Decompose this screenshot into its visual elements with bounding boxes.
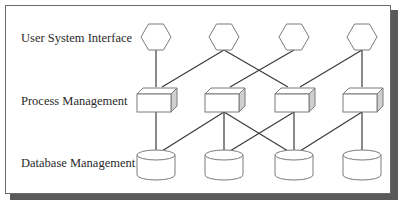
connection-line (300, 50, 362, 87)
cube-top-face (205, 88, 245, 94)
process-nodes (137, 88, 383, 112)
connection-line (162, 112, 224, 151)
cube-icon (205, 94, 239, 112)
database-cylinder-icon (343, 150, 381, 160)
hexagon-icon (209, 24, 239, 50)
cube-icon (137, 94, 171, 112)
hexagon-icon (279, 24, 309, 50)
cube-icon (275, 94, 309, 112)
database-cylinder-icon (137, 150, 175, 160)
cube-top-face (343, 88, 383, 94)
database-nodes (137, 150, 381, 180)
connection-line (230, 50, 294, 87)
hexagon-icon (141, 24, 171, 50)
database-cylinder-icon (275, 150, 313, 160)
connection-line (162, 50, 224, 87)
database-cylinder-icon (205, 150, 243, 160)
architecture-diagram (0, 0, 410, 203)
cube-top-face (137, 88, 177, 94)
connection-line (230, 112, 294, 151)
cube-top-face (275, 88, 315, 94)
connection-lines (156, 50, 362, 151)
connection-line (224, 50, 288, 87)
connection-line (224, 112, 288, 151)
cube-icon (343, 94, 377, 112)
user-interface-nodes (141, 24, 377, 50)
hexagon-icon (347, 24, 377, 50)
connection-line (300, 112, 362, 151)
